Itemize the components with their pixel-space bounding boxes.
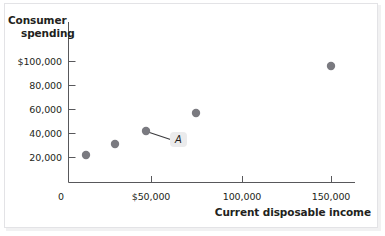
data-point-a[interactable]: [142, 127, 150, 135]
x-tick-label-100000: 100,000: [207, 191, 277, 202]
data-point[interactable]: [82, 151, 90, 159]
point-a-label: A: [170, 132, 187, 147]
y-axis-title-line2: spending: [8, 27, 98, 40]
y-tick-label-80000: 80,000: [4, 80, 62, 91]
data-point[interactable]: [192, 109, 200, 117]
y-tick-label-20000: 20,000: [4, 152, 62, 163]
y-axis-title: Consumer spending: [8, 14, 98, 39]
point-a-leader-line: [148, 132, 172, 140]
y-tick-label-40000: 40,000: [4, 128, 62, 139]
x-tick-label-150000: 150,000: [296, 191, 366, 202]
y-tick-label-100000: $100,000: [4, 56, 62, 67]
x-tick-label-50000: $50,000: [116, 191, 186, 202]
data-point[interactable]: [327, 62, 335, 70]
data-point[interactable]: [111, 140, 119, 148]
x-tick-label-0: 0: [26, 191, 96, 202]
y-tick-label-60000: 60,000: [4, 104, 62, 115]
x-axis-title: Current disposable income: [215, 206, 371, 219]
y-axis-title-line1: Consumer: [8, 14, 67, 26]
chart-figure: Consumer spending Current disposable inc…: [0, 0, 385, 236]
